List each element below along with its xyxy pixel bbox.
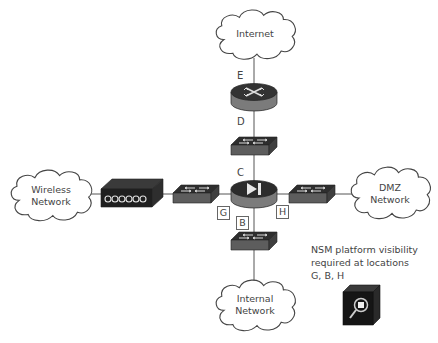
wireless-access-point-icon (101, 179, 163, 207)
wireless-text-line1: Wireless (18, 184, 84, 196)
location-box-h: H (276, 205, 289, 219)
note-line-3: G, B, H (311, 269, 418, 282)
location-label-c: C (237, 167, 244, 179)
nsm-sensor-icon (343, 285, 380, 325)
router-icon (231, 84, 277, 112)
dmz-network-label: DMZ Network (357, 182, 423, 206)
wireless-network-label: Wireless Network (18, 184, 84, 208)
internet-text: Internet (236, 28, 274, 39)
switch-bottom-icon (231, 232, 277, 250)
location-box-g: G (217, 206, 230, 220)
internet-label: Internet (222, 28, 288, 40)
internal-text-line2: Network (222, 305, 288, 317)
switch-left-icon (173, 185, 219, 203)
nsm-visibility-note: NSM platform visibility required at loca… (311, 243, 418, 282)
location-label-d: D (237, 116, 245, 128)
location-label-e: E (237, 70, 243, 82)
network-diagram (0, 0, 438, 343)
internal-text-line1: Internal (222, 293, 288, 305)
internal-network-label: Internal Network (222, 293, 288, 317)
wireless-text-line2: Network (18, 196, 84, 208)
dmz-text-line1: DMZ (357, 182, 423, 194)
dmz-text-line2: Network (357, 194, 423, 206)
note-line-2: required at locations (311, 256, 418, 269)
switch-right-icon (289, 185, 335, 203)
switch-top-icon (231, 137, 277, 155)
location-box-b: B (236, 216, 249, 230)
firewall-icon (231, 181, 277, 209)
note-line-1: NSM platform visibility (311, 243, 418, 256)
